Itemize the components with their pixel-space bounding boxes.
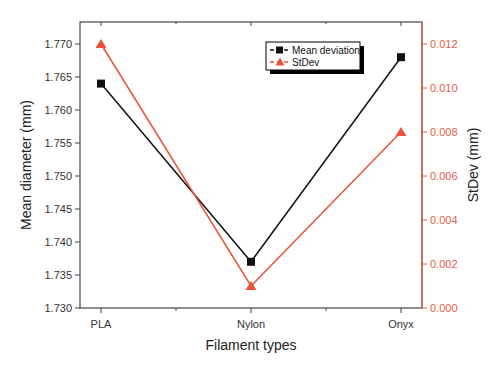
y2-tick-label: 0.008: [430, 126, 458, 138]
y2-tick-label: 0.006: [430, 170, 458, 182]
y2-axis-title: StDev (mm): [465, 128, 481, 203]
series-layer: [96, 39, 407, 290]
series-line: [101, 44, 401, 286]
y-tick-label: 1.740: [44, 236, 72, 248]
y-tick-label: 1.745: [44, 203, 72, 215]
x-axis-title: Filament types: [205, 337, 296, 353]
triangle-marker-icon: [396, 127, 407, 136]
y-axis-title: Mean diameter (mm): [18, 100, 34, 230]
y2-tick-label: 0.004: [430, 214, 458, 226]
svg-text:Mean deviation: Mean deviation: [292, 45, 360, 56]
x-tick-label: Onyx: [388, 318, 414, 330]
y2-tick-label: 0.002: [430, 258, 458, 270]
left-axis-ticks: 1.7301.7351.7401.7451.7501.7551.7601.765…: [44, 38, 80, 314]
y-tick-label: 1.770: [44, 38, 72, 50]
square-marker-icon: [397, 53, 405, 61]
legend: Mean deviation StDev: [266, 42, 364, 74]
y-tick-label: 1.755: [44, 137, 72, 149]
right-axis-ticks: 0.0000.0020.0040.0060.0080.0100.012: [422, 38, 458, 314]
y-tick-label: 1.730: [44, 302, 72, 314]
y2-tick-label: 0.010: [430, 82, 458, 94]
x-tick-label: Nylon: [237, 318, 265, 330]
dual-axis-line-chart: 1.7301.7351.7401.7451.7501.7551.7601.765…: [0, 0, 495, 367]
x-tick-label: PLA: [91, 318, 112, 330]
y-tick-label: 1.750: [44, 170, 72, 182]
y-tick-label: 1.765: [44, 71, 72, 83]
y2-tick-label: 0.000: [430, 302, 458, 314]
svg-text:StDev: StDev: [292, 57, 319, 68]
y2-tick-label: 0.012: [430, 38, 458, 50]
triangle-marker-icon: [96, 39, 107, 48]
square-marker-icon: [276, 47, 283, 54]
square-marker-icon: [247, 258, 255, 266]
square-marker-icon: [97, 80, 105, 88]
series-line: [101, 57, 401, 262]
y-tick-label: 1.760: [44, 104, 72, 116]
y-tick-label: 1.735: [44, 269, 72, 281]
